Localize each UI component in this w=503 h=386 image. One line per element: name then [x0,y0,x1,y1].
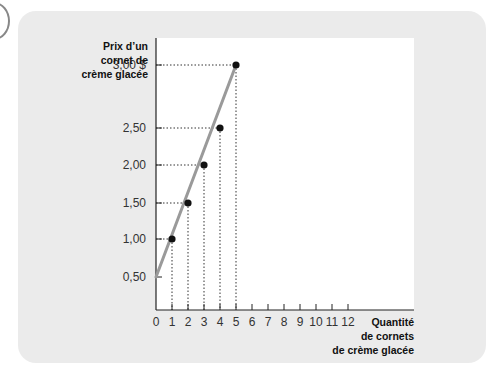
x-tick-label: 2 [185,315,192,329]
x-tick-label: 0 [153,315,160,329]
data-point [184,199,191,206]
x-tick-label: 6 [249,315,256,329]
data-point [232,61,239,68]
x-tick-label: 10 [309,315,323,329]
y-ticks: 0,501,001,502,002,503,00 $ [113,58,162,284]
x-tick-label: 12 [341,315,355,329]
y-axis-title-line-1: Prix d’un [103,40,148,52]
x-tick-label: 4 [217,315,224,329]
x-tick-label: 8 [281,315,288,329]
y-tick-label: 0,50 [123,270,147,284]
y-tick-label: 2,00 [123,158,147,172]
data-point [168,235,175,242]
x-tick-label: 5 [233,315,240,329]
y-tick-label: 2,50 [123,121,147,135]
data-point [216,124,223,131]
x-axis-title-line-1: Quantité [371,316,414,328]
supply-chart: 0123456789101112 0,501,001,502,002,503,0… [0,0,503,386]
x-tick-label: 1 [169,315,176,329]
y-axis-title-line-3: crème glacée [81,68,148,80]
x-axis-title-line-2: de cornets [361,330,414,342]
x-tick-label: 9 [297,315,304,329]
y-tick-label: 1,50 [123,196,147,210]
x-axis-title-line-3: de crème glacée [332,344,414,356]
y-tick-label: 1,00 [123,232,147,246]
data-point [200,161,207,168]
y-axis-title-line-2: cornet de [101,54,148,66]
x-tick-label: 7 [265,315,272,329]
x-tick-label: 3 [201,315,208,329]
x-tick-label: 11 [326,315,339,329]
